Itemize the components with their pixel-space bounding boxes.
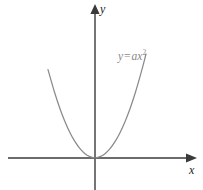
y-axis-arrowhead [90,4,99,14]
x-axis-arrowhead [186,153,197,162]
parabola-curve [48,54,146,158]
curve-equation-label: y=ax2 [118,51,146,63]
parabola-figure: y x y=ax2 [0,0,203,190]
x-axis-label: x [189,164,194,176]
y-axis [90,4,99,190]
equation-operator: = [123,50,132,62]
plot-canvas [0,0,203,190]
y-axis-label: y [100,3,105,15]
equation-exponent: 2 [142,48,146,57]
